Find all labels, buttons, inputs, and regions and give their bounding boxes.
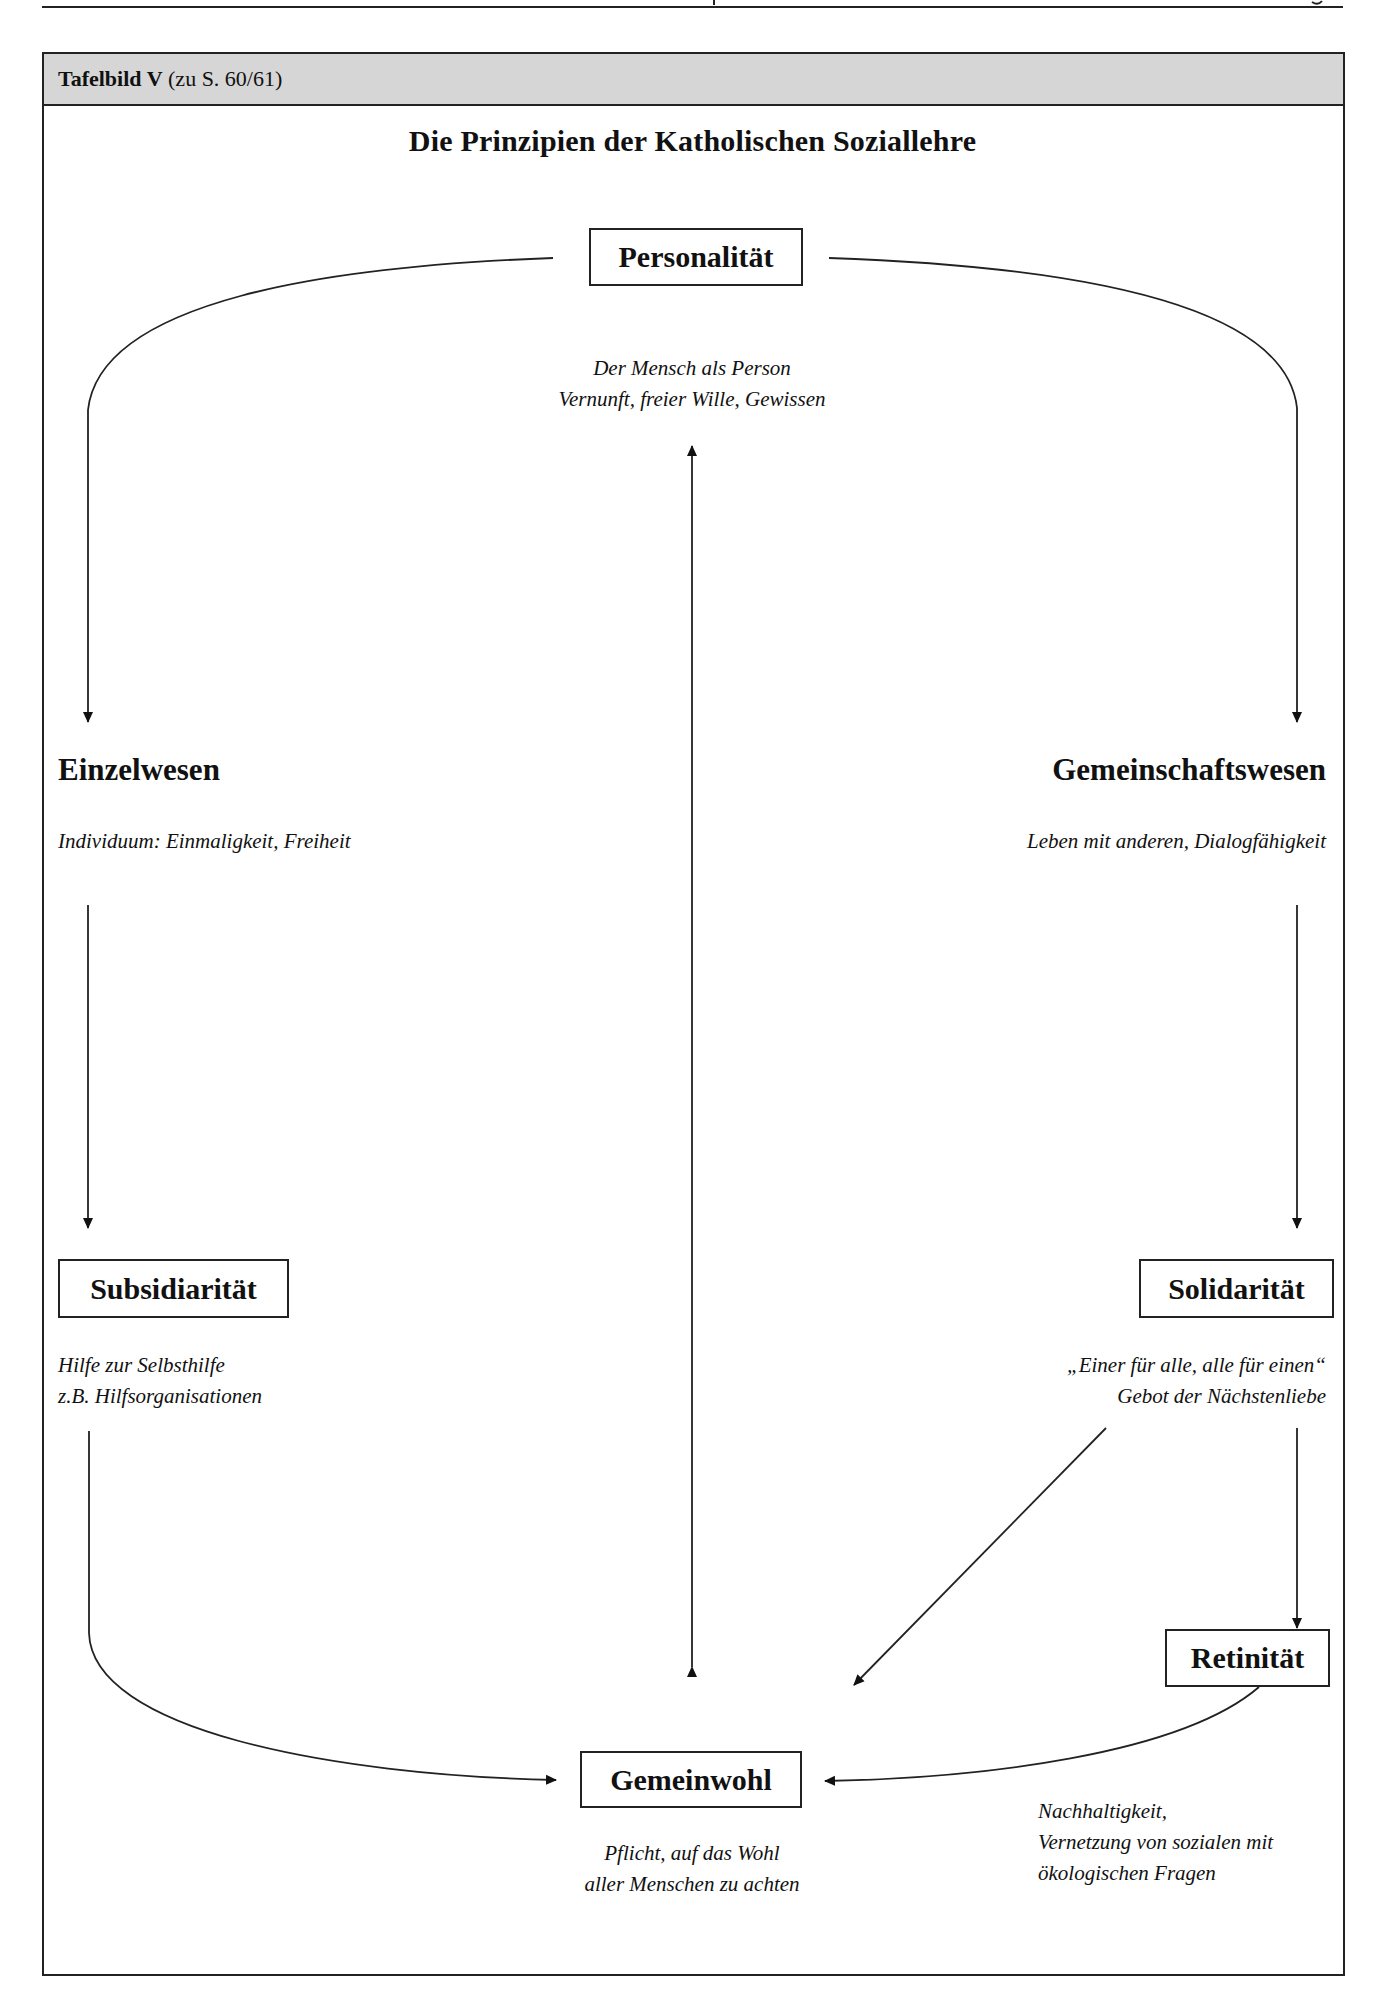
subsidiaritaet-description: Hilfe zur Selbsthilfe z.B. Hilfsorganisa…	[58, 1350, 262, 1412]
node-gemeinschaftswesen: Gemeinschaftswesen	[1052, 752, 1326, 788]
diagram-title: Die Prinzipien der Katholischen Sozialle…	[0, 124, 1385, 158]
description-line: z.B. Hilfsorganisationen	[58, 1381, 262, 1412]
node-subsidiaritaet: Subsidiarität	[58, 1259, 289, 1318]
node-einzelwesen: Einzelwesen	[58, 752, 220, 788]
arrow-personalitaet-to-einzelwesen	[88, 258, 553, 722]
node-label: Personalität	[619, 240, 774, 274]
einzelwesen-description: Individuum: Einmaligkeit, Freiheit	[58, 826, 351, 857]
solidaritaet-description: „Einer für alle, alle für einen“ Gebot d…	[1067, 1350, 1326, 1412]
node-solidaritaet: Solidarität	[1139, 1259, 1334, 1318]
description-line: ökologischen Fragen	[1038, 1858, 1273, 1889]
description-line: Vernunft, freier Wille, Gewissen	[442, 384, 942, 415]
node-label: Retinität	[1191, 1641, 1304, 1675]
arrow-retinitaet-to-gemeinwohl	[825, 1687, 1259, 1781]
description-line: Nachhaltigkeit,	[1038, 1796, 1273, 1827]
description-line: aller Menschen zu achten	[442, 1869, 942, 1900]
node-label: Solidarität	[1168, 1272, 1305, 1306]
description-line: Vernetzung von sozialen mit	[1038, 1827, 1273, 1858]
description-line: Leben mit anderen, Dialogfähigkeit	[1027, 826, 1326, 857]
arrow-solidaritaet-to-gemeinwohl	[854, 1428, 1106, 1685]
node-retinitaet: Retinität	[1165, 1629, 1330, 1687]
description-line: Pflicht, auf das Wohl	[442, 1838, 942, 1869]
description-line: „Einer für alle, alle für einen“	[1067, 1350, 1326, 1381]
cutoff-running-head-fragment	[1312, 1, 1322, 4]
gemeinschaftswesen-description: Leben mit anderen, Dialogfähigkeit	[1027, 826, 1326, 857]
gemeinwohl-description: Pflicht, auf das Wohl aller Menschen zu …	[442, 1838, 942, 1900]
connector-layer	[0, 0, 1385, 2012]
arrow-personalitaet-to-gemeinschaftswesen	[829, 258, 1297, 722]
description-line: Hilfe zur Selbsthilfe	[58, 1350, 262, 1381]
node-label: Gemeinwohl	[610, 1763, 772, 1797]
description-line: Individuum: Einmaligkeit, Freiheit	[58, 826, 351, 857]
arrow-subsidiaritaet-to-gemeinwohl	[89, 1431, 556, 1780]
node-gemeinwohl: Gemeinwohl	[580, 1751, 802, 1808]
description-line: Gebot der Nächstenliebe	[1067, 1381, 1326, 1412]
node-label: Subsidiarität	[90, 1272, 257, 1306]
retinitaet-description: Nachhaltigkeit, Vernetzung von sozialen …	[1038, 1796, 1273, 1889]
description-line: Der Mensch als Person	[442, 353, 942, 384]
personalitaet-description: Der Mensch als Person Vernunft, freier W…	[442, 353, 942, 415]
node-personalitaet: Personalität	[589, 228, 803, 286]
